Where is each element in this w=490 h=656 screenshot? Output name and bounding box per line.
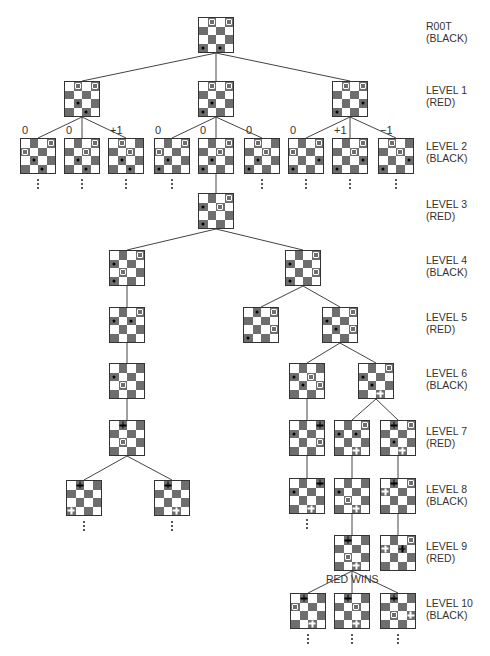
- board-square: [119, 268, 128, 277]
- board-square: [381, 603, 390, 612]
- board-square: [136, 334, 145, 343]
- board-root: [198, 17, 234, 53]
- board-square: [290, 381, 299, 390]
- board-square: [199, 220, 208, 229]
- board-square: [300, 611, 309, 620]
- black-checker-icon: [355, 432, 358, 435]
- red-checker-icon: [226, 19, 232, 25]
- black-checker-icon: [392, 441, 395, 444]
- board-square: [361, 505, 370, 514]
- board-square: [127, 308, 136, 317]
- board-square: [208, 99, 217, 108]
- black-king-icon: [300, 595, 307, 602]
- board-square: [225, 203, 234, 212]
- board-square: [118, 165, 127, 174]
- board-square: [262, 148, 271, 157]
- board-square: [306, 148, 315, 157]
- continuation-ellipsis: [81, 179, 83, 191]
- board-square: [74, 148, 83, 157]
- red-checker-icon: [48, 140, 54, 146]
- board-square: [390, 505, 399, 514]
- board-square: [315, 165, 324, 174]
- board-square: [390, 562, 399, 571]
- board-square: [352, 421, 361, 430]
- board-square: [172, 148, 181, 157]
- black-checker-icon: [113, 375, 116, 378]
- red-checker-icon: [350, 309, 356, 315]
- board-square: [136, 251, 145, 260]
- board-square: [84, 490, 93, 499]
- level-side: (RED): [426, 323, 467, 335]
- board-square: [323, 334, 332, 343]
- board-square: [390, 553, 399, 562]
- board-square: [225, 82, 234, 91]
- board-square: [127, 364, 136, 373]
- red-checker-icon: [353, 604, 359, 610]
- board-square: [298, 148, 307, 157]
- black-checker-icon: [256, 159, 259, 162]
- board-square: [91, 91, 100, 100]
- board-square: [398, 594, 407, 603]
- red-checker-icon: [120, 439, 126, 445]
- board-square: [155, 481, 164, 490]
- black-checker-icon: [129, 167, 132, 170]
- board-square: [199, 148, 208, 157]
- board-square: [119, 390, 128, 399]
- black-checker-icon: [293, 490, 296, 493]
- level-side: (RED): [426, 96, 467, 108]
- board-square: [407, 545, 416, 554]
- board-l8a: [66, 480, 102, 516]
- level-name: LEVEL 5: [426, 311, 467, 323]
- board-square: [407, 496, 416, 505]
- red-king-icon: [382, 545, 389, 552]
- board-square: [47, 165, 56, 174]
- black-checker-icon: [85, 167, 88, 170]
- board-square: [30, 139, 39, 148]
- red-checker-icon: [317, 439, 323, 445]
- board-square: [208, 194, 217, 203]
- board-square: [225, 165, 234, 174]
- board-square: [91, 82, 100, 91]
- board-square: [407, 488, 416, 497]
- board-square: [199, 44, 208, 53]
- board-square: [361, 496, 370, 505]
- board-square: [208, 108, 217, 117]
- board-square: [350, 82, 359, 91]
- board-square: [84, 507, 93, 516]
- board-square: [38, 148, 47, 157]
- board-square: [76, 498, 85, 507]
- red-checker-icon: [127, 149, 133, 155]
- board-square: [136, 373, 145, 382]
- black-checker-icon: [338, 490, 341, 493]
- board-square: [381, 421, 390, 430]
- board-square: [376, 381, 385, 390]
- board-square: [271, 148, 280, 157]
- board-square: [261, 317, 270, 326]
- board-square: [199, 108, 208, 117]
- tree-edge: [216, 117, 262, 138]
- board-square: [335, 438, 344, 447]
- board-square: [216, 82, 225, 91]
- red-king-icon: [68, 507, 75, 514]
- board-square: [135, 139, 144, 148]
- board-square: [344, 562, 353, 571]
- board-square: [82, 108, 91, 117]
- board-square: [216, 91, 225, 100]
- board-square: [405, 165, 414, 174]
- board-square: [208, 165, 217, 174]
- board-square: [295, 251, 304, 260]
- board-square: [244, 308, 253, 317]
- board-square: [82, 148, 91, 157]
- board-square: [199, 82, 208, 91]
- board-square: [119, 447, 128, 456]
- black-checker-icon: [407, 159, 410, 162]
- board-square: [405, 156, 414, 165]
- board-square: [136, 430, 145, 439]
- board-square: [91, 99, 100, 108]
- tree-edge: [261, 286, 303, 307]
- board-square: [316, 505, 325, 514]
- board-square: [119, 421, 128, 430]
- board-square: [381, 620, 390, 629]
- board-square: [388, 148, 397, 157]
- board-square: [262, 156, 271, 165]
